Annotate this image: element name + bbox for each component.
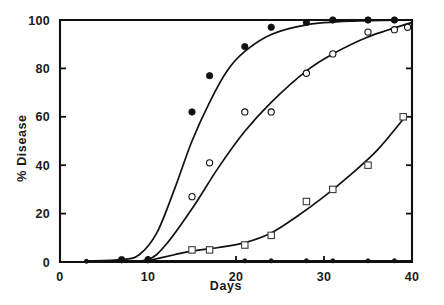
x-tick-label: 10 <box>141 270 156 284</box>
data-point-open-circle <box>268 109 274 115</box>
x-tick-label: 30 <box>317 270 332 284</box>
data-point-open-circle <box>391 27 397 33</box>
y-tick-label: 60 <box>35 110 50 124</box>
data-point-open-square <box>206 247 212 253</box>
data-point-filled-circle <box>391 17 397 23</box>
data-point-open-square <box>330 186 336 192</box>
data-point-open-circle <box>405 24 411 30</box>
x-tick-label: 40 <box>405 270 420 284</box>
data-point-filled-circle <box>330 17 336 23</box>
data-point-baseline <box>331 259 335 263</box>
data-point-open-square <box>400 114 406 120</box>
series-curve-open-circles <box>122 22 412 261</box>
data-point-open-square <box>189 247 195 253</box>
y-tick-label: 80 <box>35 62 50 76</box>
data-point-filled-circle <box>365 17 371 23</box>
plot-axes <box>60 20 412 262</box>
x-tick-label: 0 <box>56 270 63 284</box>
data-point-open-circle <box>365 29 371 35</box>
data-point-baseline <box>146 259 150 263</box>
y-tick-label: 0 <box>43 256 50 270</box>
data-point-baseline <box>392 259 396 263</box>
data-point-filled-circle <box>242 43 248 49</box>
y-axis-title: % Disease <box>15 114 29 181</box>
data-point-baseline <box>269 259 273 263</box>
series-curves <box>86 20 412 261</box>
data-point-open-circle <box>330 51 336 57</box>
data-point-open-square <box>268 232 274 238</box>
data-point-open-square <box>303 198 309 204</box>
data-point-filled-circle <box>189 109 195 115</box>
series-curve-open-squares <box>148 119 403 261</box>
data-point-baseline <box>366 259 370 263</box>
data-point-filled-circle <box>268 24 274 30</box>
chart-svg: 020406080100 010203040 Days % Disease <box>0 0 444 305</box>
data-point-open-circle <box>242 109 248 115</box>
data-point-baseline <box>120 259 124 263</box>
data-point-open-circle <box>189 194 195 200</box>
y-tick-label: 20 <box>35 207 50 221</box>
x-axis-title: Days <box>210 279 242 293</box>
data-point-open-square <box>365 162 371 168</box>
data-point-filled-circle <box>303 19 309 25</box>
data-point-open-circle <box>207 160 213 166</box>
y-tick-label: 100 <box>28 14 50 28</box>
axis-frame <box>60 20 412 262</box>
series-curve-filled-circles <box>86 20 412 261</box>
data-point-baseline <box>304 259 308 263</box>
chart-figure: 020406080100 010203040 Days % Disease <box>0 0 444 305</box>
data-point-open-circle <box>303 70 309 76</box>
data-point-filled-circle <box>206 72 212 78</box>
y-axis-ticks <box>60 68 412 213</box>
y-tick-label: 40 <box>35 159 50 173</box>
data-point-baseline <box>243 259 247 263</box>
y-axis-tick-labels: 020406080100 <box>28 14 50 270</box>
data-point-open-square <box>242 242 248 248</box>
series-markers <box>84 17 410 264</box>
data-point-baseline <box>84 259 88 263</box>
